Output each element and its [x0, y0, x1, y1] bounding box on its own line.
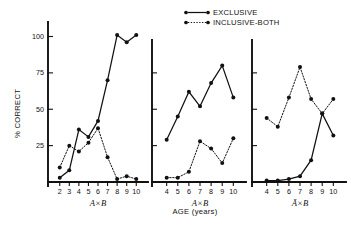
x-axis-tick-label: 2 — [58, 187, 62, 196]
data-point — [77, 128, 81, 132]
data-point — [67, 168, 71, 172]
y-axis-tick-label: 25 — [36, 141, 44, 150]
legend-item-exclusive: EXCLUSIVE — [184, 8, 257, 17]
x-axis-tick-label: 8 — [309, 187, 313, 196]
data-point — [96, 119, 100, 123]
panel-1: 2345678910A×B — [48, 33, 148, 208]
data-point — [115, 177, 119, 181]
x-axis-tick-label: 10 — [229, 187, 237, 196]
x-axis-tick-label: 7 — [106, 187, 110, 196]
data-point — [231, 96, 235, 100]
data-point — [187, 90, 191, 94]
panel-title: Ā×B — [291, 198, 309, 208]
y-axis: 255075100% CORRECT — [13, 22, 53, 186]
series-line — [167, 138, 234, 177]
data-point — [86, 135, 90, 139]
x-axis-tick-label: 5 — [86, 187, 90, 196]
y-axis-tick-label: 75 — [36, 68, 44, 77]
x-axis-tick-label: 9 — [125, 187, 129, 196]
data-point — [115, 33, 119, 37]
x-axis-tick-label: 5 — [276, 187, 280, 196]
data-point — [298, 65, 302, 69]
legend-item-inclusive-both: INCLUSIVE-BOTH — [184, 18, 279, 27]
x-axis-tick-label: 4 — [265, 187, 269, 196]
data-point — [67, 144, 71, 148]
data-point — [176, 115, 180, 119]
data-point — [320, 112, 324, 116]
series-exclusive — [265, 112, 336, 183]
data-point — [106, 155, 110, 159]
x-axis-tick-label: 8 — [115, 187, 119, 196]
data-point — [165, 176, 169, 180]
series-line — [60, 35, 137, 178]
data-point — [276, 179, 280, 183]
data-point — [77, 149, 81, 153]
x-axis-tick-label: 7 — [298, 187, 302, 196]
legend-label: INCLUSIVE-BOTH — [213, 18, 280, 27]
legend: EXCLUSIVEINCLUSIVE-BOTH — [184, 8, 279, 27]
data-point — [198, 139, 202, 143]
x-axis-tick-label: 7 — [198, 187, 202, 196]
x-axis-tick-label: 9 — [220, 187, 224, 196]
data-point — [220, 161, 224, 165]
x-axis-tick-label: 5 — [176, 187, 180, 196]
data-point — [287, 177, 291, 181]
data-point — [331, 97, 335, 101]
data-point — [209, 81, 213, 85]
legend-marker — [206, 11, 210, 15]
data-point — [220, 64, 224, 68]
data-point — [331, 133, 335, 137]
series-exclusive — [165, 64, 236, 142]
data-point — [198, 104, 202, 108]
data-point — [287, 96, 291, 100]
panel-2: 45678910A×B — [152, 40, 246, 208]
figure-container: EXCLUSIVEINCLUSIVE-BOTH255075100% CORREC… — [0, 0, 351, 225]
data-point — [58, 176, 62, 180]
legend-marker — [184, 21, 188, 25]
series-line — [267, 67, 334, 127]
legend-label: EXCLUSIVE — [213, 8, 257, 17]
multi-panel-line-chart: EXCLUSIVEINCLUSIVE-BOTH255075100% CORREC… — [0, 0, 351, 225]
series-line — [167, 66, 234, 140]
data-point — [58, 165, 62, 169]
series-exclusive — [58, 33, 139, 180]
data-point — [134, 33, 138, 37]
data-point — [86, 141, 90, 145]
x-axis-tick-label: 6 — [187, 187, 191, 196]
x-axis-tick-label: 6 — [96, 187, 100, 196]
series-line — [60, 128, 137, 179]
data-point — [96, 126, 100, 130]
y-axis-tick-label: 100 — [32, 32, 44, 41]
x-axis-tick-label: 9 — [320, 187, 324, 196]
data-point — [106, 78, 110, 82]
data-point — [276, 125, 280, 129]
x-axis-tick-label: 6 — [287, 187, 291, 196]
x-axis-tick-label: 10 — [329, 187, 337, 196]
y-axis-title: % CORRECT — [13, 89, 22, 138]
data-point — [309, 97, 313, 101]
data-point — [165, 138, 169, 142]
data-point — [265, 116, 269, 120]
y-axis-tick-label: 50 — [36, 105, 44, 114]
series-inclusive-both — [165, 136, 236, 179]
series-inclusive-both — [58, 126, 139, 181]
x-axis-tick-label: 10 — [132, 187, 140, 196]
legend-marker — [206, 21, 210, 25]
x-axis-tick-label: 4 — [77, 187, 81, 196]
x-axis-tick-label: 8 — [209, 187, 213, 196]
data-point — [125, 174, 129, 178]
data-point — [176, 176, 180, 180]
data-point — [231, 136, 235, 140]
data-point — [265, 179, 269, 183]
legend-marker — [184, 11, 188, 15]
panel-title: A×B — [89, 198, 107, 208]
data-point — [125, 40, 129, 44]
panel-3: 45678910Ā×B — [252, 40, 346, 208]
x-axis-title: AGE (years) — [172, 207, 217, 216]
data-point — [309, 158, 313, 162]
data-point — [187, 170, 191, 174]
data-point — [298, 174, 302, 178]
x-axis-tick-label: 3 — [67, 187, 71, 196]
data-point — [209, 147, 213, 151]
x-axis-tick-label: 4 — [165, 187, 169, 196]
